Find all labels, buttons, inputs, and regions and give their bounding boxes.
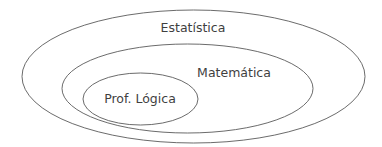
label-prof-logica: Prof. Lógica <box>104 91 176 106</box>
ellipse-matematica <box>62 44 313 133</box>
nested-sets-diagram: Estatística Matemática Prof. Lógica <box>0 0 382 147</box>
label-estatistica: Estatística <box>161 20 226 35</box>
label-matematica: Matemática <box>197 65 271 80</box>
